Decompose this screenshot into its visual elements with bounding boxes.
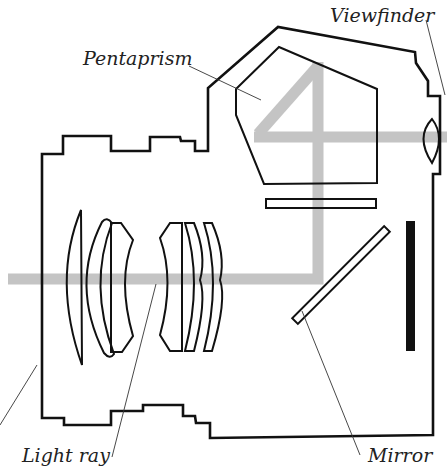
pentaprism-label: Pentaprism	[83, 49, 192, 68]
mirror-leader-line	[302, 311, 360, 455]
mirror-label: Mirror	[368, 446, 432, 465]
film-plane	[406, 221, 415, 351]
rear-lens-group	[160, 223, 222, 351]
pentaprism-leader-line	[189, 66, 261, 100]
slr-camera-diagram	[0, 0, 447, 476]
front-lens-group	[67, 210, 133, 365]
lens-barrel-leader-line	[0, 365, 37, 425]
camera-body-outline	[42, 27, 440, 438]
lens-element-2	[86, 219, 114, 357]
lens-element-3	[111, 223, 133, 352]
light-ray-leader-line	[112, 284, 156, 457]
lens-element-6	[204, 223, 222, 351]
lens-element-1	[67, 210, 82, 365]
lens-element-4	[160, 223, 182, 351]
pentaprism	[236, 47, 377, 184]
light-ray-path	[8, 62, 447, 279]
lens-element-5	[185, 223, 202, 351]
viewfinder-label: Viewfinder	[330, 6, 434, 25]
light-ray-label: Light ray	[22, 446, 110, 465]
